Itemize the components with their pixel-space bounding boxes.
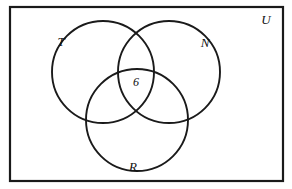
- region-count-t-n-r: 6: [133, 75, 139, 89]
- set-label-r: R: [128, 159, 137, 174]
- venn-diagram-canvas: T N R U 6: [0, 0, 292, 189]
- universal-set-rectangle: [10, 7, 283, 181]
- set-label-t: T: [57, 34, 65, 49]
- set-label-n: N: [200, 35, 211, 50]
- venn-diagram: T N R U 6: [0, 0, 292, 189]
- universal-set-label: U: [261, 12, 272, 27]
